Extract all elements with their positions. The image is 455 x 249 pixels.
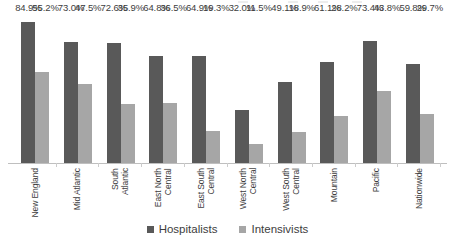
legend-item-hospitalists[interactable]: Hospitalists: [147, 224, 218, 236]
bar-group: 59.8%29.7%: [398, 14, 441, 163]
category-label-slot: South Atlantic: [99, 168, 142, 218]
bar-rect: 49.1%: [278, 82, 292, 163]
bar-group: 64.9%19.3%: [185, 14, 228, 163]
bar-group: 72.6%35.9%: [99, 14, 142, 163]
bar-rect: 84.9%: [21, 22, 35, 163]
bar-hospitalists: 59.8%: [406, 14, 420, 163]
bar-rect: 19.3%: [206, 131, 220, 163]
legend-label: Hospitalists: [159, 224, 218, 236]
bar-rect: 35.9%: [121, 104, 135, 163]
bar-rect: 28.2%: [334, 116, 348, 163]
legend-label: Intensivists: [251, 224, 308, 236]
category-label: West North Central: [239, 168, 258, 209]
bar-intensivists: 43.8%: [377, 14, 391, 163]
bar-rect: 73.0%: [64, 42, 78, 163]
bar-group: 64.8%36.5%: [142, 14, 185, 163]
category-label: Pacific: [372, 168, 382, 192]
bar-value-label: 11.5%: [246, 3, 272, 13]
axis-tick: [14, 163, 57, 167]
bar-rect: 72.6%: [107, 43, 121, 163]
bar-hospitalists: 49.1%: [278, 14, 292, 163]
axis-tick: [57, 163, 100, 167]
axis-tick: [99, 163, 142, 167]
bar-rect: 32.0%: [235, 110, 249, 163]
category-label: South Atlantic: [111, 168, 130, 218]
category-label-slot: Nationwide: [398, 168, 441, 218]
plot-area: 84.9%55.2%73.0%47.5%72.6%35.9%64.8%36.5%…: [8, 14, 447, 163]
bar-rect: 73.4%: [363, 41, 377, 163]
legend-swatch-icon: [147, 226, 154, 233]
bar-hospitalists: 84.9%: [21, 14, 35, 163]
bar-value-label: 18.9%: [289, 3, 315, 13]
bar-rect: 36.5%: [163, 103, 177, 163]
bar-group: 73.4%43.8%: [356, 14, 399, 163]
grouped-bar-chart: 84.9%55.2%73.0%47.5%72.6%35.9%64.8%36.5%…: [0, 0, 455, 249]
bar-value-label: 43.8%: [374, 3, 400, 13]
axis-tick: [185, 163, 228, 167]
bar-value-label: 28.2%: [331, 3, 357, 13]
bar-intensivists: 29.7%: [420, 14, 434, 163]
bar-rect: 18.9%: [292, 132, 306, 163]
bar-value-label: 19.3%: [203, 3, 229, 13]
category-label: Nationwide: [415, 168, 425, 209]
bar-value-label: 35.9%: [118, 3, 144, 13]
category-label-slot: Mid Atlantic: [57, 168, 100, 218]
bar-value-label: 36.5%: [160, 3, 186, 13]
bar-rect: 47.5%: [78, 84, 92, 163]
bar-hospitalists: 64.8%: [149, 14, 163, 163]
bar-group: 61.1%28.2%: [313, 14, 356, 163]
bar-rect: 43.8%: [377, 91, 391, 164]
bar-intensivists: 47.5%: [78, 14, 92, 163]
bar-rect: 59.8%: [406, 64, 420, 163]
category-label-slot: West South Central: [270, 168, 313, 218]
category-label: West South Central: [282, 168, 301, 211]
axis-tick: [398, 163, 441, 167]
axis-tick: [313, 163, 356, 167]
bar-rect: 64.9%: [192, 56, 206, 163]
axis-tick: [270, 163, 313, 167]
bar-rect: 29.7%: [420, 114, 434, 163]
legend-swatch-icon: [239, 226, 246, 233]
category-label-slot: Mountain: [313, 168, 356, 218]
axis-tick: [228, 163, 271, 167]
bar-intensivists: 18.9%: [292, 14, 306, 163]
bar-rect: 11.5%: [249, 144, 263, 163]
bar-value-label: 29.7%: [417, 3, 443, 13]
category-label: New England: [31, 168, 41, 217]
bar-group: 73.0%47.5%: [57, 14, 100, 163]
bar-hospitalists: 64.9%: [192, 14, 206, 163]
category-label-slot: East North Central: [142, 168, 185, 218]
bar-group: 84.9%55.2%: [14, 14, 57, 163]
bar-rect: 61.1%: [320, 62, 334, 163]
category-label: Mid Atlantic: [73, 168, 83, 210]
category-label: Mountain: [330, 168, 340, 202]
bar-intensivists: 19.3%: [206, 14, 220, 163]
category-label-slot: New England: [14, 168, 57, 218]
category-labels: New EnglandMid AtlanticSouth AtlanticEas…: [8, 168, 447, 218]
bar-value-label: 47.5%: [75, 3, 101, 13]
bar-hospitalists: 61.1%: [320, 14, 334, 163]
bar-value-label: 55.2%: [32, 3, 58, 13]
bar-rect: 55.2%: [35, 72, 49, 163]
category-label: East South Central: [197, 168, 216, 209]
legend-item-intensivists[interactable]: Intensivists: [239, 224, 308, 236]
category-label-slot: West North Central: [228, 168, 271, 218]
bar-intensivists: 35.9%: [121, 14, 135, 163]
bar-hospitalists: 73.4%: [363, 14, 377, 163]
axis-ticks: [8, 163, 447, 167]
bar-hospitalists: 73.0%: [64, 14, 78, 163]
bar-group: 49.1%18.9%: [270, 14, 313, 163]
category-label-slot: East South Central: [185, 168, 228, 218]
category-label: East North Central: [154, 168, 173, 207]
bar-hospitalists: 32.0%: [235, 14, 249, 163]
bar-intensivists: 55.2%: [35, 14, 49, 163]
axis-tick: [356, 163, 399, 167]
bar-intensivists: 36.5%: [163, 14, 177, 163]
bars-layer: 84.9%55.2%73.0%47.5%72.6%35.9%64.8%36.5%…: [8, 14, 447, 163]
bar-intensivists: 11.5%: [249, 14, 263, 163]
chart-legend: HospitalistsIntensivists: [0, 224, 455, 236]
axis-tick: [142, 163, 185, 167]
bar-intensivists: 28.2%: [334, 14, 348, 163]
bar-group: 32.0%11.5%: [228, 14, 271, 163]
bar-hospitalists: 72.6%: [107, 14, 121, 163]
